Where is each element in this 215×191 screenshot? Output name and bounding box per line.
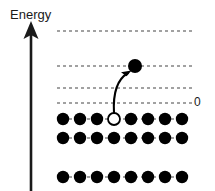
particle-filled [91,132,103,144]
energy-levels [57,31,195,177]
particle-filled [125,171,137,183]
particle-filled [159,132,171,144]
energy-axis-label: Energy [10,8,51,21]
particle-filled [74,171,86,183]
particle-filled [159,113,171,125]
particle-filled [91,113,103,125]
particle-row-below-1 [57,132,188,144]
particle-filled [159,171,171,183]
energy-level-diagram: Energy 0 [0,0,215,191]
particle-filled [57,132,69,144]
excitation-arrow-path [114,73,128,113]
particle-filled [176,132,188,144]
particle-filled [142,171,154,183]
excited-electron [128,59,142,73]
zero-level-label: 0 [194,96,201,108]
particle-filled [74,132,86,144]
particle-filled [57,171,69,183]
energy-axis-arrow [24,21,39,191]
particle-filled [142,132,154,144]
particle-filled [74,113,86,125]
particle-row-below-2 [57,171,188,183]
particle-filled [125,132,137,144]
particle-filled [176,171,188,183]
hole-open-circle [108,113,120,125]
diagram-canvas [0,0,215,191]
particle-row-fermi [57,113,188,125]
particle-filled [125,113,137,125]
particle-filled [176,113,188,125]
particle-filled [91,171,103,183]
particle-filled [108,132,120,144]
excitation-arrowhead [121,71,132,77]
excitation-arrow [114,71,132,114]
particle-filled [57,113,69,125]
particle-filled [108,171,120,183]
particle-filled [142,113,154,125]
